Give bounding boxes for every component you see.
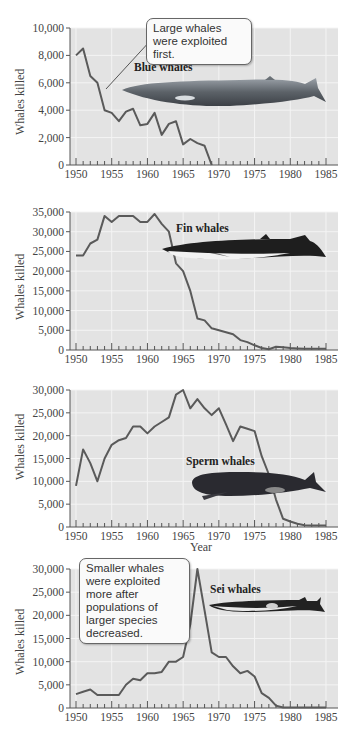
sperm-whales-panel: 05,00010,00015,00020,00025,00030,0001950… [0, 360, 355, 555]
fin-whales-panel: 05,00010,00015,00020,00025,00030,00035,0… [0, 180, 355, 360]
y-tick-label: 30,000 [32, 384, 64, 397]
fin-whale-illustration [160, 231, 326, 261]
y-tick-label: 0 [58, 521, 64, 533]
sei-whales-panel: 05,00010,00015,00020,00025,00030,0001950… [0, 555, 355, 733]
y-tick-label: 5,000 [38, 498, 64, 511]
x-tick-label: 1975 [243, 530, 266, 542]
x-tick-label: 1985 [315, 530, 338, 542]
y-axis-label: Whales killed [13, 414, 28, 480]
y-tick-label: 10,000 [32, 475, 64, 488]
y-tick-label: 5,000 [38, 324, 64, 337]
y-tick-label: 20,000 [32, 430, 64, 443]
sperm-whales-chart: 05,00010,00015,00020,00025,00030,0001950… [0, 360, 355, 555]
y-tick-label: 30,000 [32, 226, 64, 239]
y-tick-label: 0 [58, 344, 64, 356]
x-tick-label: 1960 [136, 530, 159, 542]
annotation-callout-sei: Smaller whales were exploited more after… [79, 558, 190, 644]
fin-whales-chart: 05,00010,00015,00020,00025,00030,00035,0… [0, 180, 355, 360]
sperm-whale-illustration [190, 470, 326, 504]
x-tick-label: 1950 [65, 530, 88, 542]
y-axis-label: Whales killed [13, 254, 28, 320]
y-tick-label: 15,000 [32, 285, 64, 298]
y-tick-label: 25,000 [32, 245, 64, 258]
x-tick-label: 1955 [100, 530, 123, 542]
y-tick-label: 10,000 [32, 305, 64, 318]
y-tick-label: 15,000 [32, 453, 64, 466]
x-tick-label: 1980 [279, 530, 302, 542]
y-tick-label: 25,000 [32, 407, 64, 420]
x-axis-title: Year [190, 540, 212, 555]
y-tick-label: 20,000 [32, 265, 64, 278]
blue-whales-panel: 02,0004,0006,0008,00010,0001950195519601… [0, 0, 355, 180]
series-label-sperm-whales: Sperm whales [186, 455, 255, 467]
annotation-callout-blue: Large whales were exploited first. [146, 18, 252, 65]
y-tick-label: 35,000 [32, 206, 64, 219]
